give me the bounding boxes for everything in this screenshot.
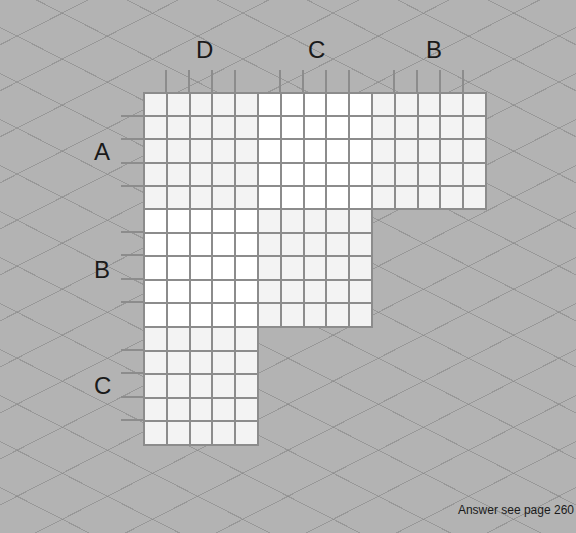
- grid-cell[interactable]: [396, 140, 417, 161]
- grid-cell[interactable]: [213, 117, 234, 138]
- grid-cell[interactable]: [282, 164, 303, 185]
- grid-cell[interactable]: [305, 257, 326, 279]
- grid-cell[interactable]: [168, 210, 189, 232]
- grid-cell[interactable]: [191, 304, 212, 326]
- grid-cell[interactable]: [191, 422, 212, 444]
- grid-cell[interactable]: [259, 117, 280, 138]
- grid-cell[interactable]: [327, 140, 348, 161]
- grid-cell[interactable]: [168, 257, 189, 279]
- grid-cell[interactable]: [282, 304, 303, 326]
- grid-cell[interactable]: [168, 117, 189, 138]
- grid-cell[interactable]: [236, 399, 257, 421]
- grid-cell[interactable]: [145, 281, 166, 303]
- grid-cell[interactable]: [350, 304, 371, 326]
- grid-cell[interactable]: [282, 257, 303, 279]
- grid-cell[interactable]: [259, 164, 280, 185]
- grid-cell[interactable]: [327, 234, 348, 256]
- grid-cell[interactable]: [282, 281, 303, 303]
- grid-cell[interactable]: [327, 281, 348, 303]
- grid-cell[interactable]: [145, 94, 166, 115]
- grid-cell[interactable]: [441, 94, 462, 115]
- grid-cell[interactable]: [236, 422, 257, 444]
- grid-cell[interactable]: [327, 164, 348, 185]
- grid-cell[interactable]: [168, 281, 189, 303]
- grid-cell[interactable]: [213, 187, 234, 208]
- grid-cell[interactable]: [327, 304, 348, 326]
- grid-cell[interactable]: [441, 117, 462, 138]
- grid-cell[interactable]: [236, 328, 257, 350]
- grid-cell[interactable]: [236, 164, 257, 185]
- grid-cell[interactable]: [236, 140, 257, 161]
- grid-cell[interactable]: [350, 281, 371, 303]
- grid-cell[interactable]: [168, 187, 189, 208]
- grid-cell[interactable]: [282, 234, 303, 256]
- grid-cell[interactable]: [419, 94, 440, 115]
- grid-cell[interactable]: [213, 304, 234, 326]
- grid-cell[interactable]: [305, 304, 326, 326]
- grid-cell[interactable]: [168, 304, 189, 326]
- grid-cell[interactable]: [145, 210, 166, 232]
- grid-cell[interactable]: [191, 352, 212, 374]
- grid-cell[interactable]: [145, 399, 166, 421]
- grid-cell[interactable]: [373, 140, 394, 161]
- grid-cell[interactable]: [396, 187, 417, 208]
- grid-cell[interactable]: [168, 328, 189, 350]
- grid-cell[interactable]: [373, 94, 394, 115]
- grid-cell[interactable]: [168, 164, 189, 185]
- grid-cell[interactable]: [305, 140, 326, 161]
- grid-cell[interactable]: [191, 375, 212, 397]
- grid-cell[interactable]: [145, 257, 166, 279]
- grid-cell[interactable]: [464, 140, 485, 161]
- grid-cell[interactable]: [350, 140, 371, 161]
- grid-cell[interactable]: [327, 257, 348, 279]
- grid-cell[interactable]: [305, 210, 326, 232]
- grid-cell[interactable]: [464, 187, 485, 208]
- grid-cell[interactable]: [213, 399, 234, 421]
- grid-cell[interactable]: [419, 140, 440, 161]
- grid-cell[interactable]: [145, 352, 166, 374]
- grid-cell[interactable]: [419, 187, 440, 208]
- grid-cell[interactable]: [191, 210, 212, 232]
- grid-cell[interactable]: [373, 164, 394, 185]
- grid-cell[interactable]: [213, 281, 234, 303]
- grid-cell[interactable]: [191, 94, 212, 115]
- grid-cell[interactable]: [213, 352, 234, 374]
- grid-cell[interactable]: [168, 375, 189, 397]
- grid-cell[interactable]: [350, 164, 371, 185]
- grid-cell[interactable]: [191, 117, 212, 138]
- grid-cell[interactable]: [282, 187, 303, 208]
- grid-cell[interactable]: [396, 164, 417, 185]
- grid-cell[interactable]: [145, 422, 166, 444]
- grid-cell[interactable]: [305, 187, 326, 208]
- grid-cell[interactable]: [396, 94, 417, 115]
- grid-cell[interactable]: [350, 117, 371, 138]
- grid-cell[interactable]: [282, 117, 303, 138]
- grid-cell[interactable]: [282, 94, 303, 115]
- grid-cell[interactable]: [191, 234, 212, 256]
- grid-cell[interactable]: [191, 328, 212, 350]
- grid-cell[interactable]: [327, 117, 348, 138]
- grid-cell[interactable]: [168, 234, 189, 256]
- grid-cell[interactable]: [350, 94, 371, 115]
- grid-cell[interactable]: [236, 187, 257, 208]
- grid-cell[interactable]: [145, 117, 166, 138]
- grid-cell[interactable]: [259, 257, 280, 279]
- grid-cell[interactable]: [168, 94, 189, 115]
- grid-cell[interactable]: [236, 375, 257, 397]
- grid-cell[interactable]: [282, 210, 303, 232]
- grid-cell[interactable]: [236, 117, 257, 138]
- grid-cell[interactable]: [145, 375, 166, 397]
- grid-cell[interactable]: [419, 164, 440, 185]
- grid-cell[interactable]: [305, 164, 326, 185]
- grid-cell[interactable]: [191, 187, 212, 208]
- grid-cell[interactable]: [305, 281, 326, 303]
- grid-cell[interactable]: [350, 210, 371, 232]
- grid-cell[interactable]: [236, 304, 257, 326]
- grid-cell[interactable]: [145, 164, 166, 185]
- grid-cell[interactable]: [213, 210, 234, 232]
- grid-cell[interactable]: [213, 94, 234, 115]
- grid-cell[interactable]: [213, 328, 234, 350]
- grid-cell[interactable]: [259, 187, 280, 208]
- grid-cell[interactable]: [213, 257, 234, 279]
- grid-cell[interactable]: [305, 94, 326, 115]
